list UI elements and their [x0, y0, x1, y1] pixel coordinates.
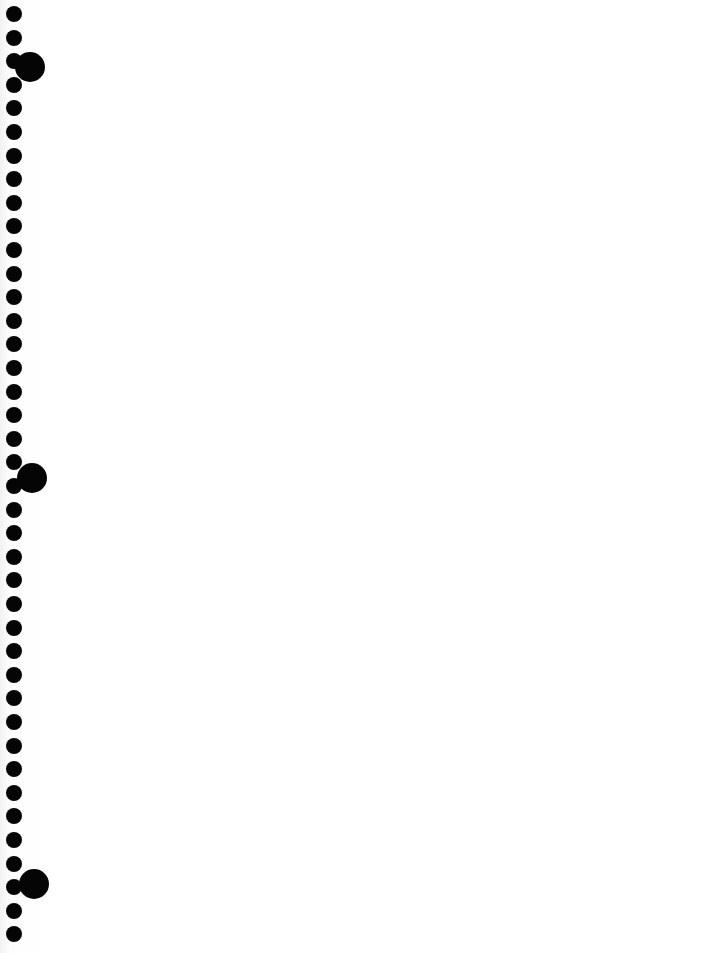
binding-hole [6, 926, 22, 942]
binding-hole [6, 100, 22, 116]
binding-hole [6, 171, 22, 187]
binding-hole [6, 6, 22, 22]
binding-hole [6, 572, 22, 588]
binding-hole [6, 502, 22, 518]
binding-hole [6, 148, 22, 164]
binding-hole [6, 714, 22, 730]
large-binding-hole [15, 52, 45, 82]
large-binding-hole [19, 869, 49, 899]
binding-hole [6, 195, 22, 211]
binding-hole [6, 690, 22, 706]
binding-hole [6, 336, 22, 352]
binding-hole [6, 360, 22, 376]
notebook-page [0, 0, 723, 953]
binding-hole [6, 738, 22, 754]
binding-hole [6, 407, 22, 423]
binding-hole [6, 30, 22, 46]
binding-hole [6, 643, 22, 659]
binding-hole [6, 903, 22, 919]
binding-hole [6, 242, 22, 258]
large-binding-hole [17, 463, 47, 493]
binding-hole [6, 856, 22, 872]
binding-hole [6, 596, 22, 612]
binding-hole [6, 761, 22, 777]
binding-hole [6, 549, 22, 565]
binding-hole [6, 832, 22, 848]
binding-hole [6, 785, 22, 801]
binding-hole [6, 124, 22, 140]
binding-hole [6, 808, 22, 824]
binding-hole [6, 218, 22, 234]
binding-hole [6, 313, 22, 329]
binding-hole [6, 431, 22, 447]
binding-hole [6, 384, 22, 400]
binding-hole [6, 289, 22, 305]
binding-hole [6, 525, 22, 541]
binding-hole [6, 667, 22, 683]
binding-hole [6, 620, 22, 636]
binding-hole [6, 77, 22, 93]
binding-hole [6, 266, 22, 282]
